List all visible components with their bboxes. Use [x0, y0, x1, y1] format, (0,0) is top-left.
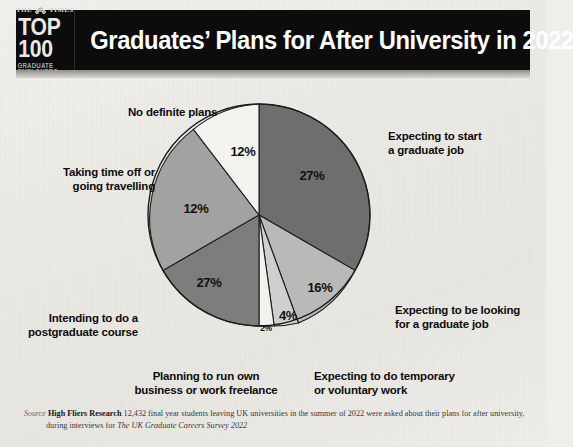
label-own-business-freelance: Planning to run own business or work fre…: [126, 370, 286, 397]
label-start-graduate-job-line1: Expecting to start: [388, 130, 538, 144]
header-bar: THE TIMES TOP 100 GRADUATE EMPLOYERS Gra…: [16, 10, 530, 70]
pct-own-business-freelance: 2%: [260, 323, 272, 333]
label-taking-time-off-line1: Taking time off or: [0, 166, 155, 180]
label-no-definite-plans-line1: No definite plans: [128, 106, 217, 120]
label-looking-graduate-job-line1: Expecting to be looking: [395, 304, 545, 318]
label-start-graduate-job: Expecting to start a graduate job: [388, 130, 538, 157]
pct-postgraduate-course: 27%: [196, 275, 221, 290]
times-top100-logo: THE TIMES TOP 100 GRADUATE EMPLOYERS: [16, 10, 75, 70]
source-organisation: High Fliers Research: [48, 409, 122, 418]
pct-looking-graduate-job: 16%: [307, 280, 332, 295]
pie-svg: [146, 102, 372, 328]
label-postgraduate-course-line1: Intending to do a: [0, 312, 138, 326]
label-start-graduate-job-line2: a graduate job: [388, 144, 538, 158]
label-no-definite-plans: No definite plans: [128, 106, 217, 120]
pct-temporary-voluntary-work: 4%: [279, 308, 297, 323]
label-temporary-voluntary-work-line2: or voluntary work: [314, 384, 494, 398]
source-line2: during interviews for The UK Graduate Ca…: [46, 420, 534, 432]
page-title: Graduates’ Plans for After University in…: [75, 26, 573, 55]
label-taking-time-off-line2: going travelling: [0, 180, 155, 194]
label-temporary-voluntary-work-line1: Expecting to do temporary: [314, 370, 494, 384]
pct-start-graduate-job: 27%: [299, 168, 324, 183]
label-temporary-voluntary-work: Expecting to do temporary or voluntary w…: [314, 370, 494, 397]
pct-no-definite-plans: 12%: [230, 144, 255, 159]
pie-chart: 27% 16% 4% 2% 27% 12% 12%: [146, 102, 372, 328]
pct-taking-time-off: 12%: [183, 201, 208, 216]
label-looking-graduate-job: Expecting to be looking for a graduate j…: [395, 304, 545, 331]
source-description: 12,432 final year students leaving UK un…: [124, 409, 525, 418]
source-word: Source: [24, 409, 46, 418]
source-note: Source High Fliers Research 12,432 final…: [24, 408, 534, 432]
label-own-business-freelance-line1: Planning to run own: [126, 370, 286, 384]
label-postgraduate-course-line2: postgraduate course: [0, 326, 138, 340]
source-line2-before: during interviews for: [46, 421, 115, 430]
source-survey-title: The UK Graduate Careers Survey 2022: [117, 421, 247, 430]
label-postgraduate-course: Intending to do a postgraduate course: [0, 312, 138, 339]
label-taking-time-off: Taking time off or going travelling: [0, 166, 155, 193]
chart-area: 27% 16% 4% 2% 27% 12% 12% No definite pl…: [0, 78, 546, 403]
logo-subtitle: GRADUATE EMPLOYERS: [17, 63, 72, 76]
label-looking-graduate-job-line2: for a graduate job: [395, 318, 545, 332]
label-own-business-freelance-line2: business or work freelance: [126, 384, 286, 398]
logo-top100-text: TOP 100: [18, 16, 71, 61]
